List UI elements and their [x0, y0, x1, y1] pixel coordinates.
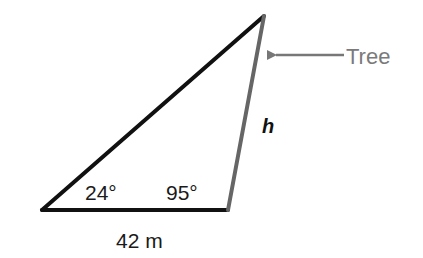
angle-left-label: 24°: [85, 181, 117, 204]
triangle-diagram: Tree h 24° 95° 42 m: [0, 0, 423, 258]
tree-label: Tree: [346, 44, 390, 69]
angle-right-label: 95°: [166, 181, 198, 204]
hypotenuse-line: [42, 16, 264, 210]
base-length-label: 42 m: [116, 229, 163, 252]
height-label: h: [262, 115, 274, 137]
